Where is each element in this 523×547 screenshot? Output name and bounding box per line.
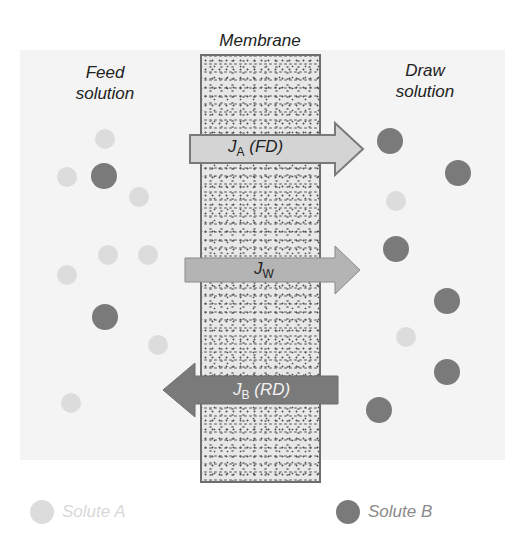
legend-solute-a: Solute A bbox=[30, 500, 126, 524]
flux-label-ja: JA (FD) bbox=[228, 137, 283, 159]
flux-label-jw: JW bbox=[254, 259, 274, 281]
solute-b-swatch-icon bbox=[336, 500, 360, 524]
flux-label-jb: JB (RD) bbox=[233, 380, 290, 402]
solute-a-swatch-icon bbox=[30, 500, 54, 524]
legend-solute-b: Solute B bbox=[336, 500, 432, 524]
